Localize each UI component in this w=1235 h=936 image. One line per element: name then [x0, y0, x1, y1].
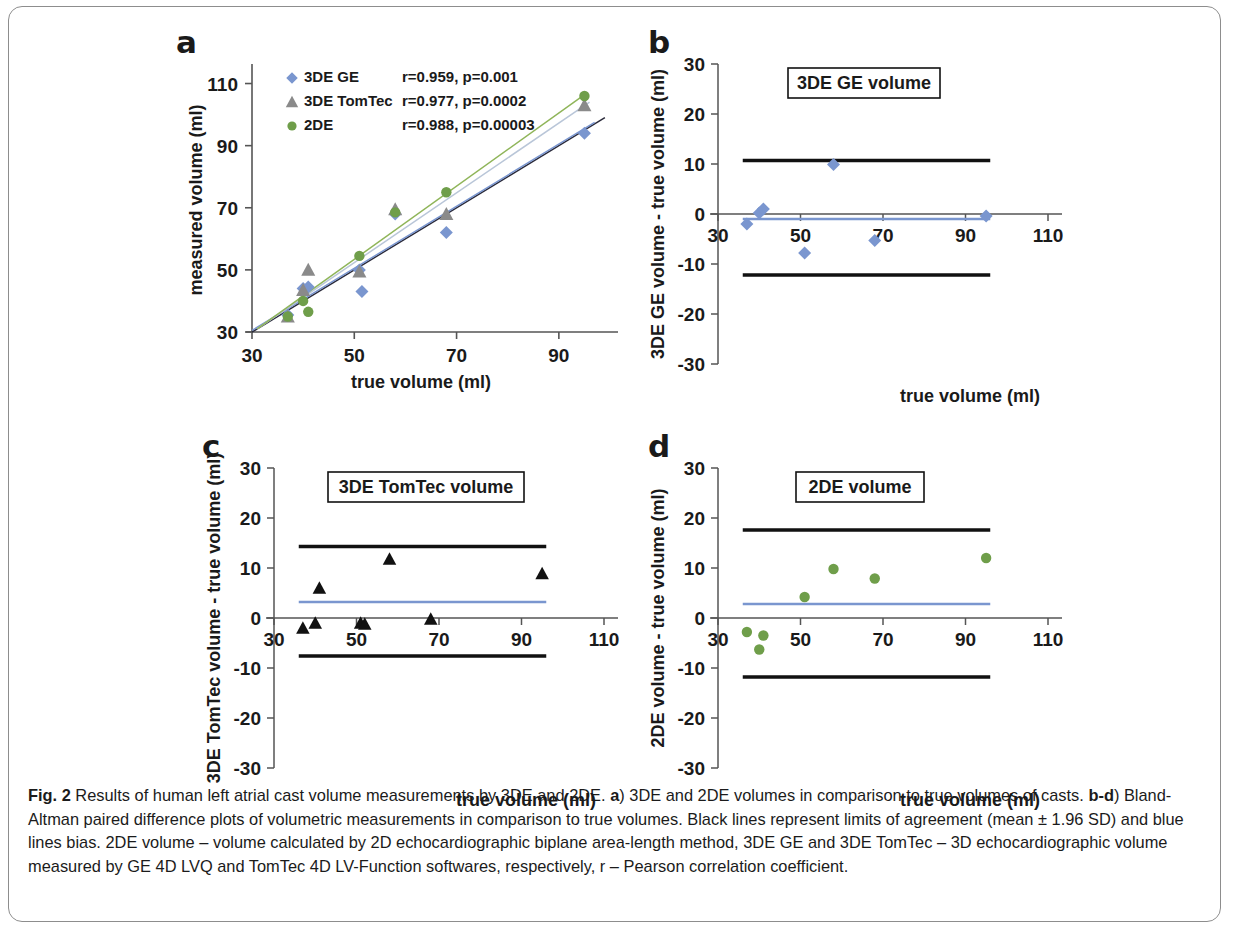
data-point — [296, 621, 310, 633]
y-tick-label-b: -20 — [678, 304, 705, 325]
axes-a: 3050709011030507090true volume (ml)measu… — [186, 64, 618, 392]
x-tick-label-b: 110 — [1033, 225, 1064, 246]
axes-c: 3020100-10-20-3030507090110true volume (… — [204, 453, 619, 810]
x-tick-label-a: 90 — [548, 345, 569, 366]
x-tick-label-b: 30 — [707, 225, 728, 246]
data-points-c — [296, 552, 549, 633]
panel-b-chart: 3020100-10-20-3030507090110true volume (… — [640, 44, 1090, 394]
y-tick-label-c: 0 — [250, 608, 261, 629]
data-point — [535, 567, 549, 579]
x-tick-label-b: 90 — [955, 225, 976, 246]
y-tick-label-c: 20 — [240, 508, 261, 529]
bland-altman-plot-d: 3020100-10-20-3030507090110true volume (… — [640, 448, 1090, 798]
data-point-3de-ge — [578, 127, 591, 140]
scatter-plot-a: 3050709011030507090true volume (ml)measu… — [180, 50, 620, 380]
y-tick-label-c: 10 — [240, 558, 261, 579]
y-tick-label-d: 30 — [684, 458, 705, 479]
y-tick-label-a: 30 — [217, 322, 238, 343]
y-tick-label-a: 50 — [217, 260, 238, 281]
agreement-lines-d — [743, 530, 991, 677]
legend-label: 3DE GE — [304, 68, 359, 85]
data-point-2de — [354, 251, 364, 261]
x-axis-title-a: true volume (ml) — [351, 372, 491, 392]
plot-title-b: 3DE GE volume — [797, 73, 931, 93]
data-point — [799, 592, 809, 602]
axes-d: 3020100-10-20-3030507090110true volume (… — [648, 458, 1063, 810]
x-tick-label-c: 50 — [346, 629, 367, 650]
data-point-2de — [579, 91, 589, 101]
agreement-lines-c — [299, 547, 547, 657]
legend-marker-triangle — [286, 96, 298, 107]
y-tick-label-a: 110 — [207, 74, 238, 95]
y-tick-label-b: -30 — [678, 354, 705, 375]
y-tick-label-b: 20 — [684, 104, 705, 125]
x-tick-label-a: 70 — [446, 345, 467, 366]
data-point-3de-ge — [440, 226, 453, 239]
x-tick-label-d: 30 — [707, 629, 728, 650]
y-tick-label-c: 30 — [240, 458, 261, 479]
caption-bold-segment: Fig. 2 — [28, 786, 75, 804]
legend-marker-circle — [287, 121, 296, 130]
panel-c-chart: 3020100-10-20-3030507090110true volume (… — [196, 448, 646, 798]
y-tick-label-c: -10 — [234, 658, 261, 679]
data-point-3de-tomtec — [301, 263, 315, 276]
plot-title-box-b: 3DE GE volume — [788, 68, 940, 98]
legend-label: 2DE — [304, 116, 333, 133]
data-point — [742, 627, 752, 637]
caption-bold-segment: a — [610, 786, 619, 804]
caption-bold-segment: b-d — [1088, 786, 1113, 804]
y-axis-title-a: measured volume (ml) — [186, 104, 206, 295]
legend-correlation-text: r=0.988, p=0.00003 — [402, 116, 535, 133]
data-point — [980, 210, 993, 223]
y-tick-label-b: 30 — [684, 54, 705, 75]
x-tick-label-a: 30 — [241, 345, 262, 366]
data-point — [870, 573, 880, 583]
y-axis-title-c: 3DE TomTec volume - true volume (ml) — [204, 453, 224, 783]
x-tick-label-d: 90 — [955, 629, 976, 650]
y-tick-label-a: 90 — [217, 136, 238, 157]
data-point — [758, 630, 768, 640]
y-tick-label-d: 0 — [694, 608, 705, 629]
x-tick-label-d: 110 — [1033, 629, 1064, 650]
data-point — [383, 552, 397, 564]
plot-title-d: 2DE volume — [808, 477, 911, 497]
y-tick-label-a: 70 — [217, 198, 238, 219]
legend-correlation-text: r=0.959, p=0.001 — [402, 68, 518, 85]
bland-altman-plot-c: 3020100-10-20-3030507090110true volume (… — [196, 448, 646, 798]
caption-segment: ) 3DE and 2DE volumes in comparison to t… — [619, 786, 1088, 804]
x-tick-label-c: 90 — [511, 629, 532, 650]
y-tick-label-d: 10 — [684, 558, 705, 579]
plot-title-box-c: 3DE TomTec volume — [328, 472, 524, 502]
y-tick-label-c: -20 — [234, 708, 261, 729]
figure-2: a 3050709011030507090true volume (ml)mea… — [0, 0, 1235, 936]
caption-segment: Results of human left atrial cast volume… — [75, 786, 610, 804]
y-tick-label-b: -10 — [678, 254, 705, 275]
plot-title-box-d: 2DE volume — [796, 472, 924, 502]
x-axis-title-b: true volume (ml) — [900, 386, 1040, 406]
panel-a-chart: 3050709011030507090true volume (ml)measu… — [180, 50, 620, 380]
x-tick-label-b: 50 — [790, 225, 811, 246]
y-tick-label-d: -30 — [678, 758, 705, 779]
y-tick-label-d: -10 — [678, 658, 705, 679]
y-tick-label-d: 20 — [684, 508, 705, 529]
x-tick-label-c: 30 — [263, 629, 284, 650]
y-tick-label-b: 10 — [684, 154, 705, 175]
data-point-2de — [441, 187, 451, 197]
plot-title-c: 3DE TomTec volume — [339, 477, 513, 497]
x-tick-label-d: 70 — [872, 629, 893, 650]
legend-a: 3DE GEr=0.959, p=0.0013DE TomTecr=0.977,… — [286, 68, 535, 133]
data-point — [313, 581, 327, 593]
data-point — [981, 553, 991, 563]
data-point-2de — [303, 307, 313, 317]
data-point-3de-ge — [355, 285, 368, 298]
legend-label: 3DE TomTec — [304, 92, 393, 109]
panel-d-chart: 3020100-10-20-3030507090110true volume (… — [640, 448, 1090, 798]
y-tick-label-d: -20 — [678, 708, 705, 729]
x-tick-label-a: 50 — [344, 345, 365, 366]
axes-b: 3020100-10-20-3030507090110true volume (… — [648, 54, 1063, 406]
x-tick-label-d: 50 — [790, 629, 811, 650]
data-point-2de — [390, 207, 400, 217]
data-point — [828, 564, 838, 574]
y-axis-title-d: 2DE volume - true volume (ml) — [648, 488, 668, 747]
data-point — [754, 644, 764, 654]
